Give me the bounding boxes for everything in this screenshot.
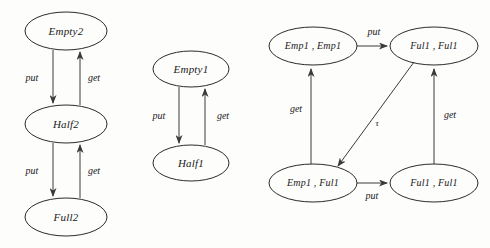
edge-label-put: put [152, 110, 166, 121]
edge-label-get: get [444, 109, 456, 120]
figure-root: put get put get Empty2 Half2 [0, 0, 490, 248]
node-half2: Half2 [25, 105, 107, 143]
node-ful-ful-bottom: Ful1 , Ful1 [390, 164, 478, 202]
edge-fulfulbot-fulfultop-get: get [434, 69, 456, 164]
edge-label-put: put [367, 26, 381, 37]
diagram-left: put get put get Empty2 Half2 [25, 12, 107, 236]
diagram-middle: put get Empty1 Half1 [152, 51, 230, 181]
edge-label-get: get [217, 110, 229, 121]
node-label-ful-ful-top: Ful1 , Ful1 [409, 40, 457, 51]
edge-empful-empemp-get: get [290, 69, 311, 164]
diagram-canvas: put get put get Empty2 Half2 [0, 0, 490, 248]
diagram-right: put get τ put get Emp1 , Emp1 [269, 26, 478, 202]
node-empty2: Empty2 [25, 12, 107, 50]
node-label-half1: Half1 [177, 157, 204, 169]
edge-fulful-empful-tau: τ [338, 62, 414, 166]
edge-empty2-half2-put: put [25, 50, 53, 103]
edge-label-put: put [25, 72, 39, 83]
node-ful-ful-top: Ful1 , Ful1 [390, 27, 478, 65]
edge-label-tau: τ [375, 118, 379, 128]
node-label-emp-ful: Emp1 , Ful1 [286, 177, 339, 188]
edge-label-get: get [290, 103, 302, 114]
node-label-empty2: Empty2 [48, 25, 84, 37]
edge-empty1-half1-put: put [152, 87, 179, 143]
node-empty1: Empty1 [153, 51, 229, 87]
node-label-emp-emp: Emp1 , Emp1 [284, 40, 341, 51]
edge-label-get: get [88, 165, 100, 176]
edge-label-get: get [88, 72, 100, 83]
node-label-empty1: Empty1 [173, 63, 209, 75]
edge-half2-full2-put: put [25, 143, 53, 196]
edge-full2-half2-get: get [80, 145, 100, 198]
edge-label-put: put [365, 190, 379, 201]
node-label-full2: Full2 [53, 211, 79, 223]
node-emp-ful: Emp1 , Ful1 [269, 164, 357, 202]
edge-empful-fulful-put: put [357, 183, 387, 201]
node-emp-emp: Emp1 , Emp1 [269, 27, 357, 65]
node-label-ful-ful-bottom: Ful1 , Ful1 [409, 177, 457, 188]
edge-half1-empty1-get: get [205, 89, 229, 145]
node-half1: Half1 [153, 145, 229, 181]
edge-label-put: put [25, 165, 39, 176]
node-full2: Full2 [25, 198, 107, 236]
node-label-half2: Half2 [52, 118, 79, 130]
edge-empemp-fulful-put: put [357, 26, 387, 46]
edge-half2-empty2-get: get [80, 52, 100, 105]
